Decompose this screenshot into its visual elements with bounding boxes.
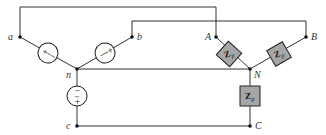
wires [20,7,306,126]
source-a: + ~ − [34,39,61,66]
source-c: − ~ + [67,86,87,106]
node-n [75,67,79,71]
label-a: a [8,31,13,42]
label-c: c [66,120,71,131]
source-b: − ~ + [91,39,118,66]
label-N: N [253,69,262,80]
node-N [248,67,252,71]
circuit-diagram: + ~ − − ~ + − ~ + Z p Z p Z p [0,0,326,135]
label-B: B [311,31,317,42]
node-C [248,124,252,128]
label-n: n [66,69,71,80]
node-A [214,35,218,39]
label-b: b [137,31,142,42]
label-A: A [204,31,212,42]
node-a [18,35,22,39]
wire-a-to-A [20,7,216,37]
node-B [304,35,308,39]
impedance-N-C: Z p [240,86,260,106]
impedance-subscript: p [251,96,255,102]
wire-b-to-B [132,21,306,37]
source-c-plus: + [75,98,81,106]
node-c [75,124,79,128]
label-C: C [255,120,262,131]
nodes [18,35,308,128]
node-b [130,35,134,39]
impedance-label: Z [245,91,251,101]
